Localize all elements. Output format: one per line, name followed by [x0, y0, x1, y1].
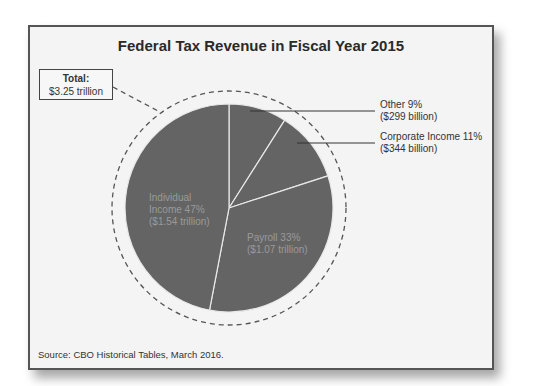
label-individual-amount: ($1.54 trillion): [149, 216, 210, 228]
label-other: Other 9% ($299 billion): [380, 99, 437, 123]
total-connector: [113, 87, 158, 111]
label-other-pct: Other 9%: [380, 99, 437, 111]
label-other-amount: ($299 billion): [380, 111, 437, 123]
total-value: $3.25 trillion: [44, 85, 108, 98]
label-individual-pct: Income 47%: [149, 204, 210, 216]
label-corporate: Corporate Income 11% ($344 billion): [380, 131, 482, 155]
label-individual: Individual Income 47% ($1.54 trillion): [149, 192, 210, 228]
total-label: Total:: [44, 72, 108, 85]
chart-frame: Federal Tax Revenue in Fiscal Year 2015 …: [28, 25, 494, 370]
total-box: Total: $3.25 trillion: [39, 69, 113, 100]
label-individual-name: Individual: [149, 192, 210, 204]
label-payroll: Payroll 33% ($1.07 trillion): [247, 232, 308, 256]
label-corporate-amount: ($344 billion): [380, 143, 482, 155]
label-payroll-amount: ($1.07 trillion): [247, 244, 308, 256]
source-note: Source: CBO Historical Tables, March 201…: [38, 349, 224, 360]
label-payroll-pct: Payroll 33%: [247, 232, 308, 244]
label-corporate-pct: Corporate Income 11%: [380, 131, 482, 143]
